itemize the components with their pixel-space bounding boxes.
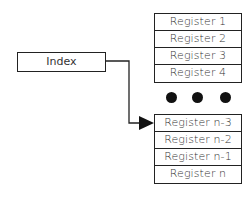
- dot-icon: [220, 92, 231, 103]
- register-cell: Register n: [155, 166, 241, 183]
- register-cell: Register 2: [155, 31, 241, 48]
- register-stack-top: Register 1 Register 2 Register 3 Registe…: [154, 13, 242, 83]
- dot-icon: [192, 92, 203, 103]
- register-stack-bottom: Register n-3 Register n-2 Register n-1 R…: [154, 114, 242, 184]
- register-cell: Register 1: [155, 14, 241, 31]
- register-cell: Register n-1: [155, 149, 241, 166]
- arrowhead-icon: [139, 116, 154, 130]
- register-cell: Register 3: [155, 48, 241, 65]
- register-cell-target: Register n-3: [155, 115, 241, 132]
- register-cell: Register n-2: [155, 132, 241, 149]
- dot-icon: [166, 92, 177, 103]
- register-cell: Register 4: [155, 65, 241, 82]
